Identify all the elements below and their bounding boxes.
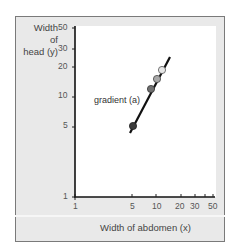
x-axis-title: Width of abdomen (x): [75, 222, 216, 233]
gradient-annotation: gradient (a): [94, 95, 140, 105]
data-point-1: [129, 122, 136, 129]
data-point-2: [147, 85, 154, 92]
chart-svg: [0, 0, 235, 250]
data-point-4: [158, 66, 165, 73]
data-point-3: [153, 75, 160, 82]
